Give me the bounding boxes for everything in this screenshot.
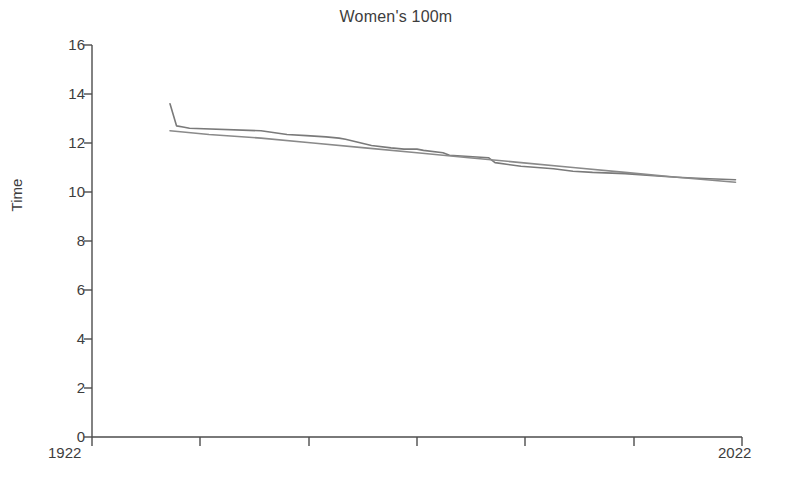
x-axis bbox=[92, 437, 742, 446]
series-line-record bbox=[170, 104, 736, 180]
y-axis bbox=[84, 45, 92, 437]
series-line-trend bbox=[170, 131, 736, 182]
plot-area bbox=[0, 0, 792, 477]
chart-container: Women's 100m Time 16 14 12 10 8 6 4 2 0 … bbox=[0, 0, 792, 477]
